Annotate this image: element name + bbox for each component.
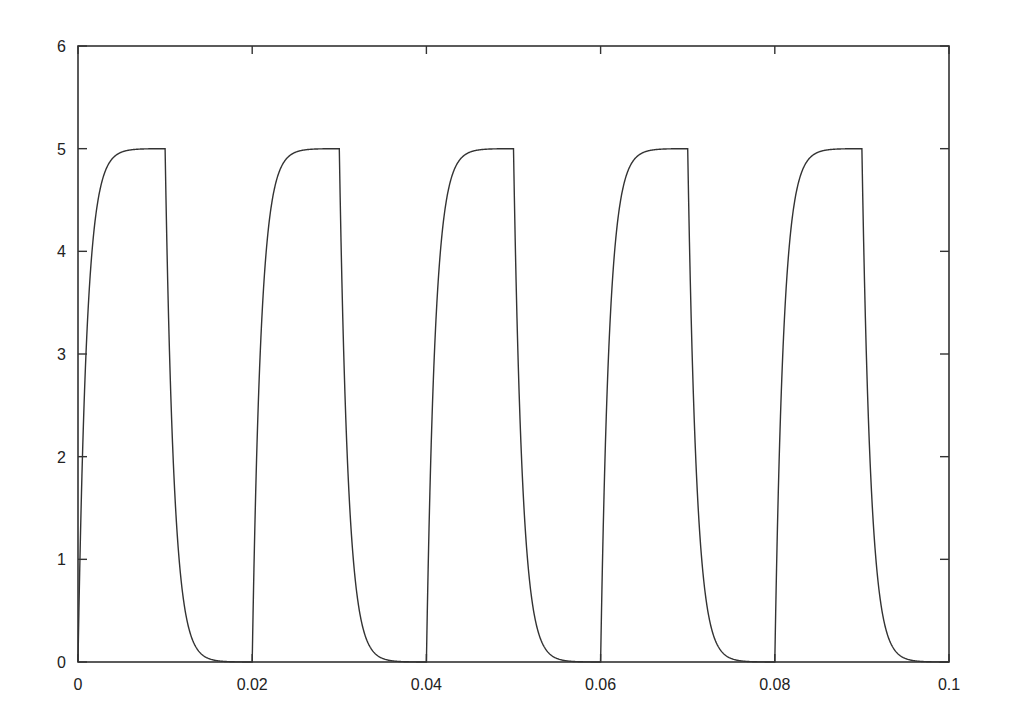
x-tick-label: 0.02 (237, 676, 268, 693)
y-tick-label: 2 (57, 449, 66, 466)
y-tick-label: 4 (57, 243, 66, 260)
chart: 00.020.040.060.080.1 0123456 (0, 0, 1015, 718)
x-tick-label: 0.08 (759, 676, 790, 693)
voltage-curve (78, 149, 949, 662)
y-tick-label: 5 (57, 141, 66, 158)
y-tick-label: 3 (57, 346, 66, 363)
x-axis-ticks (78, 46, 949, 662)
y-axis-ticks (78, 46, 949, 662)
x-tick-label: 0.06 (585, 676, 616, 693)
x-tick-label: 0.04 (411, 676, 442, 693)
x-tick-label: 0.1 (938, 676, 960, 693)
y-tick-label: 0 (57, 654, 66, 671)
x-axis-labels: 00.020.040.060.080.1 (74, 676, 961, 693)
y-tick-label: 6 (57, 38, 66, 55)
y-axis-labels: 0123456 (57, 38, 66, 671)
plot-frame (78, 46, 949, 662)
y-tick-label: 1 (57, 551, 66, 568)
x-tick-label: 0 (74, 676, 83, 693)
